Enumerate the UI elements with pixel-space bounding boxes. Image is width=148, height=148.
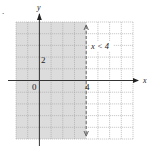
y-axis-arrow-icon <box>37 13 42 20</box>
origin-label: 0 <box>32 82 37 92</box>
item-bullet: . <box>2 6 4 16</box>
y-axis-label: y <box>36 3 41 12</box>
x-axis-label: x <box>142 76 147 85</box>
inequality-label: x < 4 <box>90 41 110 51</box>
y-tick-label: 2 <box>41 55 46 65</box>
x-tick-label: 4 <box>85 82 90 92</box>
inequality-graph: . x y 2 0 4 x < 4 <box>0 0 148 148</box>
x-axis-arrow-icon <box>133 78 139 83</box>
